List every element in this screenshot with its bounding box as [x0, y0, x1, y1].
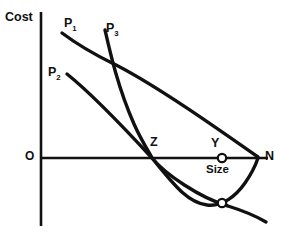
marker-y-circle: [218, 154, 226, 162]
curve-label-p2: P2: [48, 66, 61, 81]
curve-label-p3-subscript: 3: [114, 29, 118, 38]
marker-crossing-circle: [218, 199, 226, 207]
y-axis-label: Cost: [5, 11, 33, 24]
x-axis-label: Size: [206, 164, 229, 176]
curve-label-p1-subscript: 1: [72, 24, 76, 33]
cost-size-diagram-svg: [0, 0, 293, 237]
point-label-z: Z: [150, 136, 158, 149]
origin-label: O: [25, 150, 34, 162]
figure-container: Cost O P1 P2 P3 Z Y Size N: [0, 0, 293, 237]
curve-label-p3: P3: [106, 22, 119, 37]
point-label-n: N: [265, 150, 274, 163]
curve-label-p1: P1: [64, 17, 77, 32]
point-label-y: Y: [211, 137, 219, 150]
curve-label-p2-subscript: 2: [56, 73, 60, 82]
